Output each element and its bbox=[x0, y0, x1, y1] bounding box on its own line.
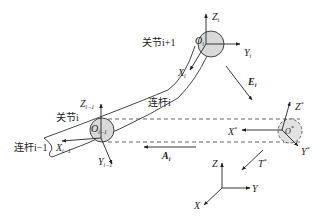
label-Yim1: Yi−1 bbox=[98, 157, 112, 168]
diagram-canvas bbox=[0, 0, 322, 218]
label-Zim1: Zi−1 bbox=[80, 99, 94, 110]
label-joint-i-plus-1: 关节i+1 bbox=[142, 38, 175, 48]
label-Zi: Zi bbox=[212, 12, 219, 23]
label-link-i: 连杆i bbox=[148, 98, 171, 108]
label-joint-i: 关节i bbox=[56, 113, 79, 123]
label-Ei: Ei bbox=[248, 77, 256, 88]
label-Xi: Xi bbox=[178, 68, 186, 79]
label-Xim1: Xi−1 bbox=[56, 143, 71, 154]
label-O-star: O* bbox=[285, 125, 294, 136]
label-Z-star: Z* bbox=[295, 101, 304, 112]
label-world-Y: Y bbox=[252, 184, 258, 194]
label-Ai: Ai bbox=[162, 151, 170, 162]
label-Yi: Yi bbox=[244, 48, 251, 59]
label-Y-star: Y* bbox=[301, 146, 310, 157]
dashed-lines bbox=[108, 119, 300, 142]
label-Oi: Oi bbox=[195, 36, 204, 47]
label-link-i-minus-1: 连杆i−1 bbox=[14, 143, 47, 153]
label-world-Z: Z bbox=[212, 159, 218, 169]
label-T-star: T* bbox=[258, 158, 267, 169]
label-X-star: X* bbox=[228, 126, 237, 137]
axis-Xi bbox=[190, 44, 206, 70]
world-X bbox=[204, 188, 222, 205]
label-world-X: X bbox=[194, 201, 200, 211]
label-Oim1: Oi−1 bbox=[91, 124, 107, 135]
